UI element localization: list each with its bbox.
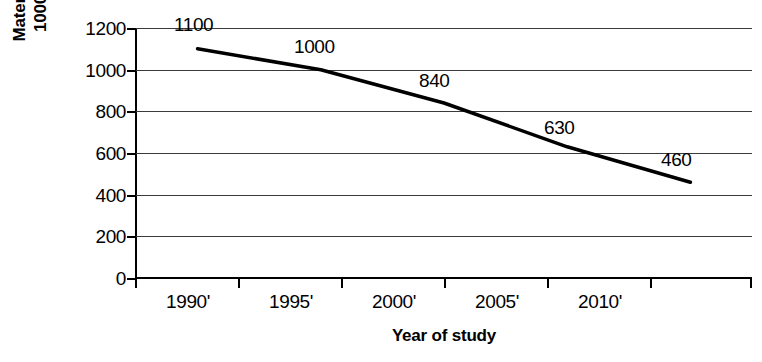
- maternal-deaths-polyline: [198, 49, 691, 182]
- y-axis-title-line-2: 100000 live births: [30, 0, 51, 32]
- y-tick-label-200: 200: [66, 227, 126, 246]
- y-tickmark-1000: [127, 70, 136, 72]
- y-tick-label-1000: 1000: [66, 61, 126, 80]
- x-axis-title: Year of study: [136, 326, 752, 346]
- data-label-2005: 630: [544, 118, 575, 137]
- y-tick-label-1200: 1200: [66, 19, 126, 38]
- x-tick-label-1990: 1990': [136, 292, 240, 311]
- x-tick-label-2010: 2010': [548, 292, 652, 311]
- y-axis-title: Maternal deaths per 100000 live births: [2, 0, 58, 86]
- data-label-1990: 1100: [174, 15, 213, 34]
- x-tick-label-1995: 1995': [239, 292, 343, 311]
- x-tickmark-1: [238, 278, 240, 288]
- y-tickmark-1200: [127, 28, 136, 30]
- data-label-1995: 1000: [294, 37, 335, 56]
- y-tick-label-600: 600: [66, 144, 126, 163]
- x-tickmark-2: [341, 278, 343, 288]
- x-tick-label-2000: 2000': [342, 292, 446, 311]
- y-tickmark-400: [127, 195, 136, 197]
- y-tickmark-600: [127, 153, 136, 155]
- x-tickmark-4: [547, 278, 549, 288]
- y-tick-label-0: 0: [66, 269, 126, 288]
- data-label-2010: 460: [661, 150, 692, 169]
- chart-figure: Maternal deaths per 100000 live births 1…: [0, 0, 762, 362]
- y-tickmark-800: [127, 111, 136, 113]
- x-tickmark-0: [135, 278, 137, 288]
- x-tick-label-2005: 2005': [445, 292, 549, 311]
- y-axis-tick-labels: 1200 1000 800 600 400 200 0: [64, 0, 126, 362]
- data-series-line: [136, 28, 752, 278]
- x-tickmark-5: [650, 278, 652, 288]
- data-label-2000: 840: [419, 71, 450, 90]
- y-axis-title-line-1: Maternal deaths per: [9, 0, 30, 41]
- y-tick-label-800: 800: [66, 102, 126, 121]
- x-tickmark-6: [750, 278, 752, 288]
- x-tickmark-3: [444, 278, 446, 288]
- y-tickmark-200: [127, 236, 136, 238]
- y-tick-label-400: 400: [66, 186, 126, 205]
